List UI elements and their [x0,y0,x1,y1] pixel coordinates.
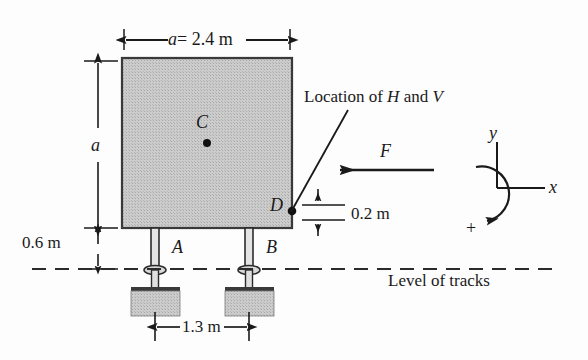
axis-x-label: x [549,178,557,196]
force-label: F [380,142,391,160]
callout-label: Location of H and V [304,88,443,105]
left-dimension-a [84,61,118,228]
axis-positive-label: + [466,219,476,237]
rotation-direction-arc [476,166,509,221]
diagram-canvas [0,0,588,360]
left-dimension-clearance [84,232,118,269]
track-level-label: Level of tracks [388,272,490,289]
coordinate-axes [476,142,545,221]
bottom-dimension-label: 1.3 m [182,318,221,335]
wheel-assembly-b [225,266,274,317]
wheel-assembly-a [131,266,180,317]
offset-dimension-lines [302,189,345,236]
callout-text-b: and [399,87,432,106]
callout-text-a: Location of [304,87,387,106]
left-dimension-a-label: a [91,136,100,154]
engineering-diagram: a= 2.4 m a 0.6 m C D A B F 0.2 m Locatio… [0,0,588,360]
centroid-marker [203,139,211,147]
top-dimension-label: a= 2.4 m [168,30,233,48]
point-d-label: D [270,196,283,214]
clearance-dimension-label: 0.6 m [22,234,61,251]
top-dimension-value: = 2.4 m [177,29,233,49]
callout-symbol-h: H [387,87,399,106]
centroid-label: C [196,113,208,131]
callout-leader-line [291,110,348,212]
axis-y-label: y [489,124,497,142]
offset-dimension-label: 0.2 m [351,205,390,222]
support-b-label: B [266,238,277,256]
support-post-b [245,228,253,270]
support-a-label: A [172,238,183,256]
top-dimension-symbol: a [168,29,177,49]
support-post-a [151,228,159,270]
callout-symbol-v: V [432,87,442,106]
